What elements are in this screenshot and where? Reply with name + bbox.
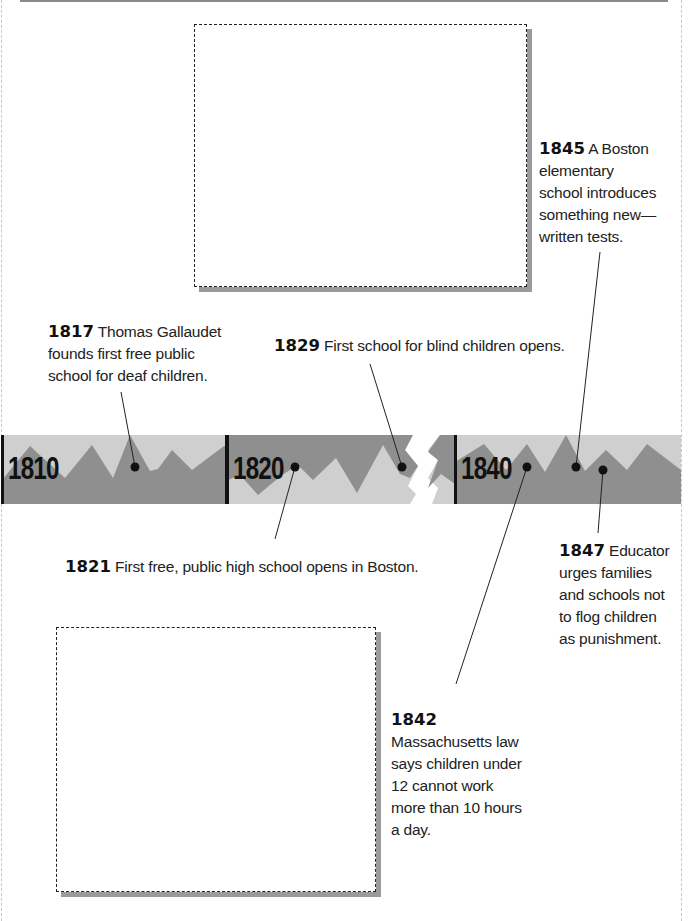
event-year: 1842 bbox=[391, 710, 437, 729]
event-text-line: founds first free public bbox=[48, 345, 195, 362]
event-year: 1817 bbox=[48, 322, 94, 341]
event-text-line: to flog children bbox=[559, 608, 657, 625]
event-text-line: as punishment. bbox=[559, 630, 661, 647]
event-1842: 1842 Massachusetts law says children und… bbox=[391, 709, 541, 841]
event-1847: 1847 Educator urges families and schools… bbox=[559, 540, 679, 650]
event-text-line: school for deaf children. bbox=[48, 367, 208, 384]
decade-label-1810: 1810 bbox=[8, 453, 59, 484]
event-dot-1821 bbox=[291, 463, 300, 472]
event-text-line: urges families bbox=[559, 564, 652, 581]
event-text: First school for blind children opens. bbox=[324, 337, 565, 354]
event-text-line: A Boston bbox=[588, 140, 648, 157]
event-year: 1845 bbox=[539, 139, 585, 158]
decade-label-1820: 1820 bbox=[233, 453, 284, 484]
event-text-line: 12 cannot work bbox=[391, 777, 493, 794]
decade-label-1840: 1840 bbox=[461, 453, 512, 484]
event-text-line: something new— bbox=[539, 206, 656, 223]
event-text-line: and schools not bbox=[559, 586, 665, 603]
leader-line-1845 bbox=[576, 252, 600, 467]
event-1817: 1817 Thomas Gallaudet founds first free … bbox=[48, 321, 248, 387]
event-dot-1829 bbox=[398, 463, 407, 472]
event-text-line: Thomas Gallaudet bbox=[98, 323, 221, 340]
event-text: First free, public high school opens in … bbox=[115, 558, 418, 575]
event-text-line: a day. bbox=[391, 821, 431, 838]
event-year: 1829 bbox=[274, 336, 320, 355]
event-text-line: more than 10 hours bbox=[391, 799, 522, 816]
event-text-line: Educator bbox=[609, 542, 669, 559]
event-1845: 1845 A Boston elementary school introduc… bbox=[539, 138, 679, 248]
event-text-line: written tests. bbox=[539, 228, 623, 245]
event-1829: 1829 First school for blind children ope… bbox=[274, 335, 574, 357]
event-1821: 1821 First free, public high school open… bbox=[65, 556, 505, 578]
event-text-line: elementary bbox=[539, 162, 614, 179]
event-dot-1817 bbox=[131, 463, 140, 472]
event-year: 1847 bbox=[559, 541, 605, 560]
event-dot-1847 bbox=[599, 466, 608, 475]
event-dot-1845 bbox=[572, 463, 581, 472]
event-text-line: says children under bbox=[391, 755, 522, 772]
event-year: 1821 bbox=[65, 557, 111, 576]
event-text-line: Massachusetts law bbox=[391, 733, 519, 750]
event-text-line: school introduces bbox=[539, 184, 656, 201]
event-dot-1842 bbox=[523, 463, 532, 472]
